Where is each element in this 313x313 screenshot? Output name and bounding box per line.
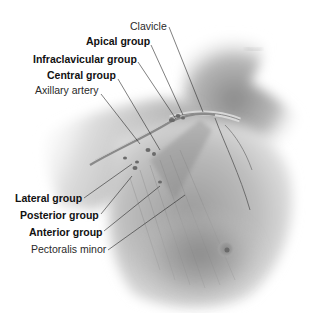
breast-shading <box>135 205 265 305</box>
label-axillary-artery: Axillary artery <box>35 84 99 96</box>
axillary-lymph-nodes-figure: Clavicle Apical group Infraclavicular gr… <box>0 0 313 313</box>
label-apical-group: Apical group <box>86 35 150 47</box>
label-anterior-group: Anterior group <box>29 226 103 238</box>
label-lateral-group: Lateral group <box>15 192 82 204</box>
label-pectoralis-minor: Pectoralis minor <box>31 243 106 255</box>
label-clavicle: Clavicle <box>130 20 167 32</box>
label-central-group: Central group <box>47 69 116 81</box>
label-infraclavicular-group: Infraclavicular group <box>33 53 137 65</box>
nipple <box>225 248 230 253</box>
anatomy-illustration <box>0 0 313 313</box>
label-posterior-group: Posterior group <box>20 209 99 221</box>
